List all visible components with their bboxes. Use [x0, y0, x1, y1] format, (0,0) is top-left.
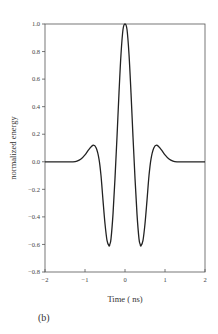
- x-tick-label: 2: [203, 276, 206, 283]
- x-tick-label: 1: [163, 276, 166, 283]
- x-tick-label: 0: [123, 276, 126, 283]
- x-tick-label: −1: [82, 276, 89, 283]
- y-tick-label: 0.2: [32, 130, 40, 137]
- y-axis: 1.00.80.60.40.20.0−0.2−0.4−0.6−0.8: [28, 20, 45, 275]
- y-tick-label: −0.4: [28, 213, 41, 220]
- x-tick-label: −2: [42, 276, 49, 283]
- panel-label: (b): [38, 312, 50, 324]
- y-tick-label: −0.2: [28, 186, 40, 193]
- y-tick-label: −0.8: [28, 268, 40, 275]
- line-chart: 1.00.80.60.40.20.0−0.2−0.4−0.6−0.8 −2−10…: [0, 0, 218, 334]
- y-tick-label: 0.6: [32, 75, 41, 82]
- pulse-line: [45, 24, 205, 246]
- y-tick-label: 1.0: [32, 20, 40, 27]
- y-axis-label: normalized energy: [8, 116, 18, 180]
- x-axis: −2−1012: [42, 269, 207, 283]
- y-tick-label: 0.8: [32, 48, 40, 55]
- y-tick-label: 0.0: [32, 158, 40, 165]
- plot-frame: [45, 24, 205, 272]
- y-tick-label: 0.4: [32, 103, 41, 110]
- x-axis-label: Time ( ns): [107, 294, 142, 304]
- y-tick-label: −0.6: [28, 241, 41, 248]
